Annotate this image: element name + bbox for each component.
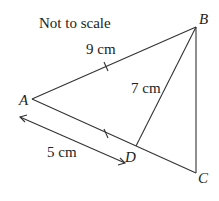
point-label-D: D — [125, 150, 136, 165]
point-label-C: C — [198, 171, 208, 186]
not-to-scale-note: Not to scale — [39, 16, 111, 31]
length-label-AB: 9 cm — [86, 42, 116, 57]
length-label-AD: 5 cm — [47, 145, 77, 160]
point-label-B: B — [199, 12, 208, 27]
point-label-A: A — [19, 93, 28, 108]
length-label-BD: 7 cm — [131, 81, 161, 96]
tick-mark-AB — [104, 62, 108, 71]
segment-AB — [32, 27, 196, 99]
segment-AC — [32, 99, 196, 173]
